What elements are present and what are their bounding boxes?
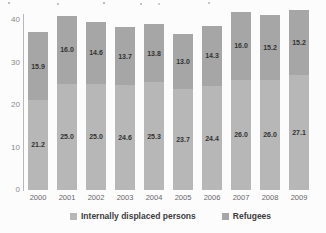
x-label-2007: 2007 [227,193,256,202]
x-label-2001: 2001 [53,193,82,202]
bar-2000: 15.921.2 [28,32,48,190]
legend-item-refugees: Refugees [222,211,271,221]
value-label: 24.6 [118,134,132,141]
value-label: 13.8 [147,50,161,57]
value-label: 14.6 [89,49,103,56]
bar-2007: 16.026.0 [231,12,251,191]
segment-refugees-2009: 15.2 [289,10,309,75]
segment-idp-2009: 27.1 [289,75,309,190]
segment-idp-2001: 25.0 [57,84,77,190]
segment-refugees-2005: 13.0 [173,34,193,89]
refugees-swatch-icon [222,213,229,220]
x-label-2008: 2008 [256,193,285,202]
x-label-2004: 2004 [140,193,169,202]
segment-refugees-2000: 15.9 [28,32,48,100]
legend-label-idp: Internally displaced persons [81,211,196,221]
segment-idp-2005: 23.7 [173,89,193,190]
y-tick-10: 10 [0,143,20,153]
bar-2008: 15.226.0 [260,15,280,190]
x-label-2009: 2009 [285,193,314,202]
y-tick-20: 20 [0,100,20,110]
segment-refugees-2006: 14.3 [202,26,222,87]
value-label: 23.7 [176,136,190,143]
value-label: 21.2 [31,141,45,148]
legend-item-idp: Internally displaced persons [70,211,196,221]
value-label: 13.0 [176,58,190,65]
value-label: 16.0 [60,46,74,53]
segment-refugees-2007: 16.0 [231,12,251,80]
segment-refugees-2004: 13.8 [144,24,164,83]
clipped-title-remnant [8,2,10,4]
bar-2003: 13.724.6 [115,27,135,190]
value-label: 27.1 [292,129,306,136]
x-label-2003: 2003 [111,193,140,202]
x-label-2005: 2005 [169,193,198,202]
bar-2001: 16.025.0 [57,16,77,190]
x-label-2006: 2006 [198,193,227,202]
value-label: 15.2 [292,39,306,46]
bar-2002: 14.625.0 [86,22,106,190]
y-axis-line [23,14,24,191]
segment-idp-2002: 25.0 [86,84,106,190]
segment-idp-2003: 24.6 [115,85,135,190]
segment-refugees-2002: 14.6 [86,22,106,84]
value-label: 25.0 [89,133,103,140]
value-label: 26.0 [263,131,277,138]
value-label: 15.9 [31,63,45,70]
bar-2004: 13.825.3 [144,24,164,190]
segment-idp-2007: 26.0 [231,80,251,191]
value-label: 25.3 [147,133,161,140]
segment-refugees-2001: 16.0 [57,16,77,84]
x-label-2000: 2000 [24,193,53,202]
value-label: 13.7 [118,53,132,60]
bar-2005: 13.023.7 [173,34,193,190]
segment-refugees-2003: 13.7 [115,27,135,85]
value-label: 14.3 [205,52,219,59]
bar-2009: 15.227.1 [289,10,309,190]
x-label-2002: 2002 [82,193,111,202]
segment-idp-2000: 21.2 [28,100,48,190]
legend-label-refugees: Refugees [233,211,271,221]
segment-idp-2004: 25.3 [144,82,164,190]
stacked-bar-chart: 010203040 15.921.216.025.014.625.013.724… [0,0,326,233]
value-label: 15.2 [263,44,277,51]
segment-idp-2008: 26.0 [260,80,280,191]
idp-swatch-icon [70,213,77,220]
y-tick-30: 30 [0,58,20,68]
segment-refugees-2008: 15.2 [260,15,280,80]
bar-2006: 14.324.4 [202,26,222,190]
y-tick-40: 40 [0,15,20,25]
value-label: 25.0 [60,133,74,140]
value-label: 26.0 [234,131,248,138]
value-label: 24.4 [205,135,219,142]
segment-idp-2006: 24.4 [202,86,222,190]
value-label: 16.0 [234,42,248,49]
y-tick-0: 0 [0,185,20,195]
legend: Internally displaced persons Refugees [70,211,271,221]
